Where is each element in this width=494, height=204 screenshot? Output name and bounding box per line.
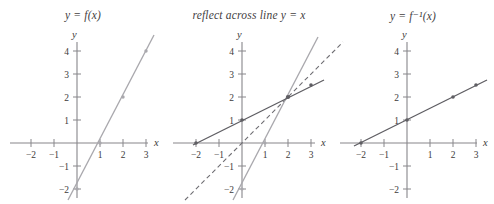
panel-2-title-text: reflect across line y = x bbox=[192, 9, 305, 21]
panel-3-title-text: y = f⁻¹(x) bbox=[390, 10, 436, 22]
x-axis-tick-labels: −2 −1 1 2 3 bbox=[26, 150, 149, 160]
x-axis-label: x bbox=[153, 137, 159, 148]
x-tick-label: −1 bbox=[379, 150, 389, 160]
data-point bbox=[405, 118, 409, 122]
y-tick-label: −2 bbox=[59, 185, 69, 195]
x-tick-label: 1 bbox=[98, 150, 103, 160]
data-point bbox=[286, 95, 290, 99]
x-tick-label: −2 bbox=[356, 150, 366, 160]
data-point bbox=[451, 95, 455, 99]
x-tick-label: 3 bbox=[309, 150, 314, 160]
x-tick-label: −1 bbox=[49, 150, 59, 160]
y-tick-label: 3 bbox=[394, 70, 399, 80]
y-axis-tick-labels: 1 2 3 4 −1 −2 bbox=[389, 47, 399, 195]
x-tick-label: 3 bbox=[144, 150, 149, 160]
data-point bbox=[121, 95, 124, 98]
y-tick-label: 2 bbox=[64, 93, 69, 103]
x-tick-label: −1 bbox=[214, 150, 224, 160]
curve-identity-line bbox=[185, 42, 343, 200]
y-tick-label: 3 bbox=[229, 70, 234, 80]
panel-2-title: reflect across line y = x bbox=[163, 9, 335, 21]
y-axis-label: y bbox=[401, 29, 407, 40]
y-tick-label: 3 bbox=[64, 70, 69, 80]
y-axis-label: y bbox=[71, 29, 77, 40]
panel-reflection: reflect across line y = x −2 −1 1 2 bbox=[163, 0, 335, 204]
x-axis-tick-labels: −2 −1 1 2 3 bbox=[191, 150, 314, 160]
y-tick-label: 4 bbox=[229, 47, 234, 57]
y-tick-label: −2 bbox=[389, 185, 399, 195]
y-tick-label: 4 bbox=[64, 47, 69, 57]
y-tick-label: −1 bbox=[224, 162, 234, 172]
x-axis-label: x bbox=[482, 137, 488, 148]
x-tick-label: 1 bbox=[428, 150, 433, 160]
curve-function-inverse bbox=[354, 80, 487, 146]
x-axis-tick-labels: −2 −1 1 2 3 bbox=[356, 150, 479, 160]
y-tick-label: 2 bbox=[229, 93, 234, 103]
x-tick-label: 2 bbox=[286, 150, 291, 160]
x-tick-label: −2 bbox=[191, 150, 201, 160]
panel-3-plot: −2 −1 1 2 3 1 2 3 bbox=[332, 32, 494, 202]
panel-1-title-text: y = f(x) bbox=[65, 9, 101, 21]
curve-function-inverse bbox=[193, 80, 324, 145]
y-tick-label: −1 bbox=[59, 162, 69, 172]
y-axis-tick-labels: 1 2 3 4 −1 −2 bbox=[224, 47, 234, 195]
y-tick-label: −1 bbox=[389, 162, 399, 172]
y-axis-label: y bbox=[236, 29, 242, 40]
panel-2-plot: −2 −1 1 2 3 1 2 3 bbox=[163, 32, 335, 202]
data-point bbox=[194, 141, 198, 145]
x-tick-label: 1 bbox=[263, 150, 268, 160]
panel-function-f: y = f(x) −2 −1 1 2 bbox=[0, 0, 166, 204]
panel-function-inverse: y = f⁻¹(x) −2 −1 1 2 3 bbox=[332, 0, 494, 204]
panel-1-title: y = f(x) bbox=[0, 9, 166, 21]
panel-3-title: y = f⁻¹(x) bbox=[332, 9, 494, 23]
x-tick-label: 3 bbox=[474, 150, 479, 160]
curve-function-f bbox=[68, 35, 154, 200]
data-point bbox=[309, 83, 313, 87]
data-point bbox=[263, 141, 266, 144]
y-tick-label: 1 bbox=[64, 116, 69, 126]
data-point bbox=[75, 187, 78, 190]
inverse-function-reflection-figure: y = f(x) −2 −1 1 2 bbox=[0, 0, 494, 204]
data-point bbox=[144, 49, 147, 52]
data-point-markers-f bbox=[75, 49, 147, 190]
data-point bbox=[474, 83, 478, 87]
y-axis-tick-labels: 1 2 3 4 −1 −2 bbox=[59, 47, 69, 195]
x-tick-label: −2 bbox=[26, 150, 36, 160]
x-tick-label: 2 bbox=[121, 150, 126, 160]
panel-1-plot: −2 −1 1 2 3 1 2 3 bbox=[0, 32, 166, 202]
data-point bbox=[240, 187, 243, 190]
x-tick-label: 2 bbox=[451, 150, 456, 160]
data-point bbox=[240, 118, 244, 122]
x-axis-label: x bbox=[320, 137, 326, 148]
y-tick-label: −2 bbox=[224, 185, 234, 195]
y-tick-label: 4 bbox=[394, 47, 399, 57]
data-point bbox=[359, 141, 363, 145]
y-tick-label: 2 bbox=[394, 93, 399, 103]
data-point bbox=[98, 141, 101, 144]
